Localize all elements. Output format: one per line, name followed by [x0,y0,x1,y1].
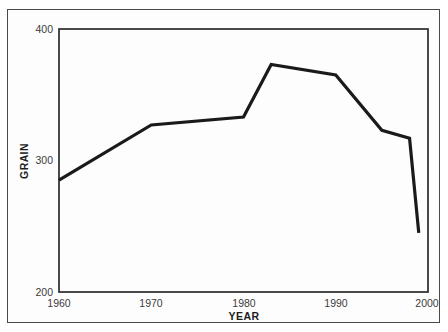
x-tick-label-1960: 1960 [47,297,71,309]
x-tick-label-2000: 2000 [415,297,439,309]
x-tick-label-1990: 1990 [324,297,348,309]
x-tick-label-1970: 1970 [139,297,163,309]
plot-frame [59,29,428,292]
grain-series-line [59,65,419,233]
y-tick-label-400: 400 [35,23,53,35]
y-tick-label-300: 300 [35,154,53,166]
x-tick-label-1980: 1980 [232,297,256,309]
chart-figure: 400 300 200 GRAIN 1960 1970 1980 1990 20… [0,0,448,332]
grain-vs-year-line-chart: 400 300 200 GRAIN 1960 1970 1980 1990 20… [0,0,448,332]
x-axis-title: YEAR [229,310,260,322]
y-axis-tick-labels: 400 300 200 [35,23,53,298]
y-axis-title: GRAIN [18,143,30,179]
plot-area-rect [59,29,428,292]
x-axis-tick-labels: 1960 1970 1980 1990 2000 [47,297,439,309]
